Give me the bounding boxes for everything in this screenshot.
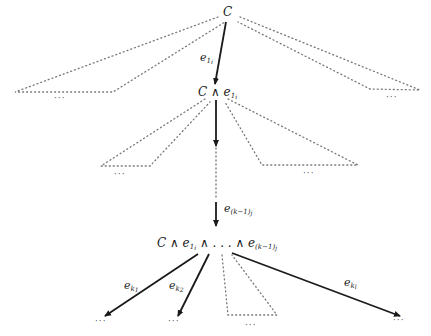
edge-label-ek1: ek1 (124, 280, 139, 293)
edge-ek1j-sub1: (k−1) (231, 208, 251, 216)
edge-ek1-sub2: 1 (135, 286, 139, 293)
solid-edges (105, 22, 400, 316)
node-lk-subk: (k−1) (255, 243, 275, 251)
edge-label-ek1j: e(k−1)j (224, 203, 252, 216)
edge-ek2-sub2: 2 (180, 286, 184, 293)
node-root-label: C (223, 5, 232, 19)
edge-ekl (232, 253, 400, 316)
edge-label-ekl: ekl (344, 277, 357, 290)
ellipsis-leaf-k1: ··· (95, 317, 107, 326)
node-lk-middle: ∧ . . . ∧ e (196, 236, 255, 250)
dotted-subtrees (15, 17, 420, 315)
node-root: C (223, 6, 232, 18)
node-lk-subj: j (275, 244, 277, 251)
ellipsis-root-right: ··· (386, 93, 398, 102)
ellipsis-leaf-kl: ··· (393, 316, 405, 325)
search-tree-diagram: C C ∧ e1i C ∧ e1i ∧ . . . ∧ e(k−1)j e1i … (0, 0, 431, 336)
edge-label-e1i: e1i (200, 52, 213, 65)
ellipsis-root-left: ··· (54, 94, 66, 103)
edge-label-ek2: ek2 (169, 280, 184, 293)
l1-left-subtree (101, 99, 210, 166)
ellipsis-l1-right: ··· (303, 169, 315, 178)
lk-mid-subtree (222, 255, 277, 315)
edge-e1i-sub2: i (211, 58, 213, 65)
edge-e1i (215, 22, 226, 84)
node-level1-label: C ∧ e (198, 85, 231, 99)
node-level-k: C ∧ e1i ∧ . . . ∧ e(k−1)j (157, 237, 277, 251)
edge-ek1 (105, 254, 198, 316)
edge-ek1j-sub2: j (251, 209, 253, 216)
node-level1: C ∧ e1i (198, 86, 237, 100)
root-right-subtree (238, 17, 420, 90)
ellipsis-leaf-mid: ··· (245, 321, 257, 330)
l1-right-subtree (225, 99, 358, 165)
node-lk-prefix: C ∧ e (157, 236, 190, 250)
ellipsis-leaf-k2: ··· (168, 317, 180, 326)
edge-ekl-sub2: l (355, 283, 357, 290)
root-left-subtree (15, 17, 225, 92)
node-level1-sub2: i (235, 93, 237, 100)
diagram-edges (0, 0, 431, 336)
ellipsis-l1-left: ··· (114, 170, 126, 179)
